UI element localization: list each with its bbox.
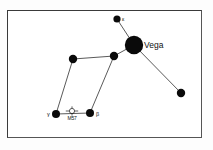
star-lower-right[interactable]	[177, 89, 185, 97]
star-beta[interactable]	[86, 109, 94, 117]
constellation-lines	[56, 19, 181, 114]
star-chart: Vega ε γ β M57	[0, 0, 213, 150]
star-epsilon[interactable]	[113, 15, 120, 22]
label-beta: β	[96, 111, 99, 117]
line-vega-lower-right	[134, 45, 181, 93]
label-gamma: γ	[47, 111, 50, 117]
star-vega[interactable]	[125, 36, 143, 54]
label-vega: Vega	[144, 40, 164, 50]
label-epsilon: ε	[122, 16, 125, 22]
line-delta-gamma	[56, 59, 73, 114]
label-m57: M57	[67, 115, 77, 121]
line-zeta-delta	[73, 56, 114, 59]
star-delta[interactable]	[69, 55, 77, 63]
sky-canvas: Vega ε γ β M57	[0, 0, 213, 150]
star-zeta[interactable]	[110, 52, 118, 60]
stars	[52, 15, 185, 118]
labels: Vega ε γ β M57	[47, 16, 164, 121]
line-zeta-beta	[90, 56, 114, 113]
star-gamma[interactable]	[52, 110, 60, 118]
